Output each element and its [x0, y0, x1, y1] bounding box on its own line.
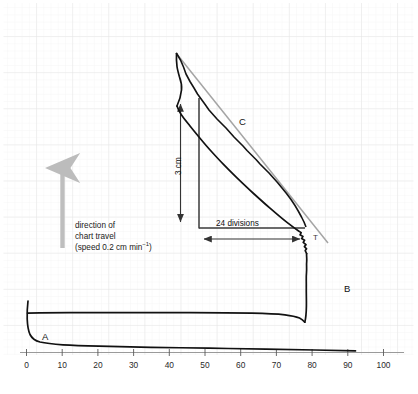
- region-label-c: C: [239, 116, 246, 129]
- dimension-label-24-divisions: 24 divisions: [216, 219, 259, 230]
- x-tick-label-100: 100: [377, 360, 391, 370]
- chart-travel-line-3: (speed 0.2 cm min−1): [75, 243, 152, 254]
- x-tick-label-60: 60: [236, 360, 245, 370]
- x-tick-label-20: 20: [93, 360, 102, 370]
- chromatogram-chart: 0 10 20 30 40 50 60 70 80 90 100 A B C T…: [0, 0, 418, 394]
- x-tick-label-10: 10: [58, 360, 67, 370]
- x-tick-label-90: 90: [343, 360, 352, 370]
- x-tick-label-80: 80: [307, 360, 316, 370]
- region-label-a: A: [42, 331, 48, 344]
- chart-travel-caption: direction of chart travel (speed 0.2 cm …: [75, 221, 152, 253]
- x-tick-label-0: 0: [24, 360, 29, 370]
- x-tick-label-70: 70: [272, 360, 281, 370]
- x-tick-label-30: 30: [129, 360, 138, 370]
- chart-travel-line-1: direction of: [75, 221, 152, 232]
- chart-travel-speed-prefix: (speed 0.2 cm min: [75, 243, 142, 252]
- chart-canvas: [0, 0, 418, 394]
- chart-travel-line-2: chart travel: [75, 232, 152, 243]
- region-label-b: B: [344, 283, 350, 296]
- chart-travel-speed-suffix: ): [149, 243, 152, 252]
- x-tick-label-40: 40: [165, 360, 174, 370]
- x-tick-label-50: 50: [200, 360, 209, 370]
- dimension-label-3cm: 3 cm: [174, 157, 185, 175]
- tangent-label-t: T: [313, 233, 318, 244]
